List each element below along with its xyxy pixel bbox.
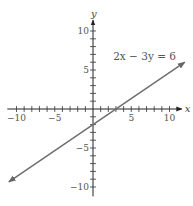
line-series (9, 62, 185, 182)
graph: −10−5510105−5−10 x y 2x − 3y = 6 (0, 0, 193, 206)
x-tick-label: −10 (7, 113, 26, 123)
y-tick-label: 5 (83, 65, 89, 75)
equation-label: 2x − 3y = 6 (113, 50, 176, 62)
y-axis-label: y (90, 8, 97, 19)
y-tick-label: −10 (70, 182, 89, 192)
x-axis-label: x (185, 103, 191, 114)
y-tick-label: 10 (78, 26, 90, 36)
x-tick-label: 5 (128, 113, 134, 123)
y-tick-label: −5 (76, 143, 90, 153)
x-tick-label: 10 (164, 113, 176, 123)
x-tick-label: −5 (48, 113, 62, 123)
